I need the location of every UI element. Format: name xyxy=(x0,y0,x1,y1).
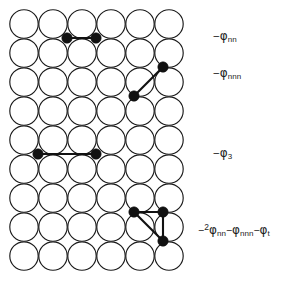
lattice-circle xyxy=(155,10,183,38)
lattice-circle xyxy=(10,10,38,38)
lattice-circle xyxy=(97,68,125,96)
site-dot-triangle xyxy=(158,236,168,246)
lattice-circle xyxy=(39,126,67,154)
lattice-circle xyxy=(68,184,96,212)
lattice-circle xyxy=(97,39,125,67)
site-dot-nn xyxy=(62,33,72,43)
lattice-circle xyxy=(10,155,38,183)
label-phi3-sign: − xyxy=(213,147,220,159)
lattice-circle xyxy=(68,213,96,241)
lattice-circle xyxy=(126,39,154,67)
lattice-diagram xyxy=(0,0,295,284)
lattice-circle-layer xyxy=(10,10,183,270)
lattice-circle xyxy=(155,242,183,270)
label-nn-sign: − xyxy=(213,30,220,42)
lattice-circle xyxy=(126,242,154,270)
lattice-circle xyxy=(155,184,183,212)
lattice-circle xyxy=(68,10,96,38)
lattice-circle xyxy=(10,184,38,212)
lattice-circle xyxy=(155,155,183,183)
lattice-circle xyxy=(97,155,125,183)
label-phi3-symbol: φ xyxy=(220,146,228,160)
label-triangle-subscript3: t xyxy=(268,229,270,238)
lattice-circle xyxy=(39,213,67,241)
lattice-circle xyxy=(126,126,154,154)
lattice-circle xyxy=(97,126,125,154)
lattice-circle xyxy=(39,97,67,125)
site-dot-nnn xyxy=(129,91,139,101)
lattice-circle xyxy=(97,213,125,241)
lattice-circle xyxy=(126,184,154,212)
lattice-circle xyxy=(68,126,96,154)
label-nn-subscript: nn xyxy=(228,35,237,44)
label-nnn-symbol: φ xyxy=(220,66,228,80)
lattice-circle xyxy=(126,68,154,96)
lattice-circle xyxy=(68,97,96,125)
lattice-circle xyxy=(10,213,38,241)
lattice-circle xyxy=(10,126,38,154)
lattice-circle xyxy=(97,242,125,270)
lattice-circle xyxy=(10,39,38,67)
lattice-circle xyxy=(39,39,67,67)
lattice-figure: −φnn −φnnn −φ3 −2φnn−φnnn−φt xyxy=(0,0,295,284)
lattice-circle xyxy=(126,97,154,125)
site-dot-nnn xyxy=(158,62,168,72)
lattice-circle xyxy=(39,68,67,96)
label-triangle-subscript: nn xyxy=(217,229,226,238)
lattice-circle xyxy=(68,68,96,96)
lattice-circle xyxy=(39,184,67,212)
lattice-circle xyxy=(155,39,183,67)
lattice-circle xyxy=(126,155,154,183)
lattice-circle xyxy=(155,126,183,154)
label-phi3-subscript: 3 xyxy=(228,152,232,161)
lattice-circle xyxy=(97,10,125,38)
lattice-circle xyxy=(39,242,67,270)
site-dot-phi3 xyxy=(91,149,101,159)
lattice-circle xyxy=(68,242,96,270)
site-dot-phi3 xyxy=(33,149,43,159)
label-triangle-subscript2: nnn xyxy=(240,229,253,238)
label-nnn: −φnnn xyxy=(213,67,241,80)
lattice-circle xyxy=(97,97,125,125)
label-nnn-subscript: nnn xyxy=(228,72,241,81)
site-dot-triangle xyxy=(129,207,139,217)
lattice-circle xyxy=(10,242,38,270)
label-phi3: −φ3 xyxy=(213,147,232,160)
lattice-circle xyxy=(10,97,38,125)
label-triangle-symbol2: φ xyxy=(232,223,240,237)
lattice-circle xyxy=(10,68,38,96)
label-nn-symbol: φ xyxy=(220,29,228,43)
lattice-circle xyxy=(97,184,125,212)
lattice-circle xyxy=(68,39,96,67)
lattice-circle xyxy=(39,10,67,38)
lattice-circle xyxy=(39,155,67,183)
site-dot-triangle xyxy=(158,207,168,217)
lattice-circle xyxy=(68,155,96,183)
label-triangle-symbol3: φ xyxy=(260,223,268,237)
lattice-circle xyxy=(126,10,154,38)
label-nn: −φnn xyxy=(213,30,237,43)
label-triangle-symbol: φ xyxy=(209,223,217,237)
lattice-circle xyxy=(155,97,183,125)
label-triangle: −2φnn−φnnn−φt xyxy=(198,224,270,236)
label-nnn-sign: − xyxy=(213,67,220,79)
site-dot-nn xyxy=(91,33,101,43)
